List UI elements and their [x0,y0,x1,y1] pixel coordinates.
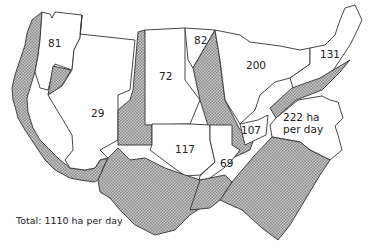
region-label-great-lakes: 200 [246,59,266,71]
region-label-upper-midwest: 82 [194,34,207,46]
region-label-mid-atlantic-line1: 222 ha [283,111,319,123]
region-label-delta: 69 [220,157,233,169]
region-label-northeast: 131 [320,48,340,60]
region-label-northern-plains: 72 [159,70,172,82]
region-label-appalachia: 107 [241,124,261,136]
region-label-west: 29 [91,107,104,119]
region-label-pacific-northwest: 81 [48,37,61,49]
region-label-southern-plains: 117 [175,143,195,155]
total-label: Total: 1110 ha per day [16,215,123,226]
region-label-mid-atlantic-line2: per day [283,123,323,135]
